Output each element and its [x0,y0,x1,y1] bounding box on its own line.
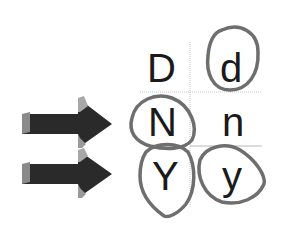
arrow-right-icon [22,96,112,148]
cell-n: n [222,102,244,142]
cell-Y: Y [152,156,179,196]
cell-D: D [147,48,176,88]
arrow-right-icon [22,148,112,198]
cell-y: y [222,156,242,196]
cell-d: d [220,48,242,88]
cell-N: N [148,102,177,142]
diagram: D d N n Y y [0,0,282,230]
